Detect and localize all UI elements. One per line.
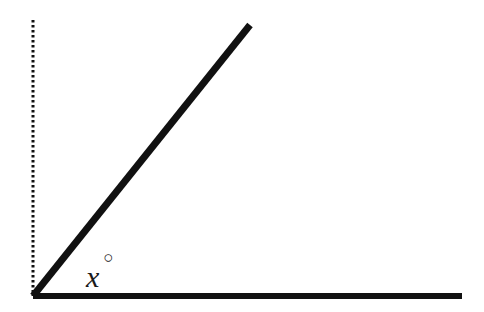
diagonal-ray [33, 25, 250, 296]
angle-label: x○ [86, 246, 110, 276]
angle-variable-x: x [86, 260, 99, 293]
angle-diagram-svg [0, 0, 484, 312]
angle-diagram-canvas: x○ [0, 0, 484, 312]
degree-symbol-icon: ○ [103, 248, 113, 267]
